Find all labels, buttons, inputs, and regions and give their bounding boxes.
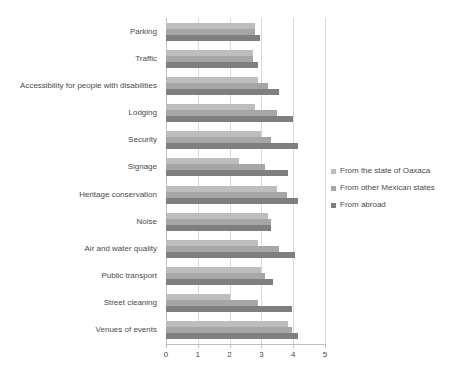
bar-group (166, 317, 325, 344)
axis-tick-label: 3 (259, 350, 263, 359)
plot-area (166, 18, 325, 344)
bar (166, 198, 298, 204)
chart-legend: From the state of OaxacaFrom other Mexic… (331, 166, 456, 217)
bar (166, 279, 273, 285)
legend-item[interactable]: From other Mexican states (331, 183, 456, 193)
axis-line (166, 344, 325, 345)
bar (166, 62, 258, 68)
bar-group (166, 45, 325, 72)
bar (166, 333, 298, 339)
bar-group (166, 127, 325, 154)
legend-swatch-icon (331, 203, 336, 208)
bar (166, 306, 292, 312)
legend-item[interactable]: From abroad (331, 200, 456, 210)
category-label: Parking (0, 18, 162, 45)
axis-tick-label: 0 (164, 350, 168, 359)
axis-tick-label: 4 (291, 350, 295, 359)
bar-group (166, 72, 325, 99)
bar (166, 143, 298, 149)
axis-tick (293, 344, 294, 348)
bar (166, 225, 271, 231)
bar (166, 89, 279, 95)
category-label: Security (0, 127, 162, 154)
category-label: Signage (0, 154, 162, 181)
bar-chart: ParkingTrafficAccessibility for people w… (0, 0, 458, 379)
category-label: Street cleaning (0, 290, 162, 317)
gridline (325, 18, 326, 344)
value-axis: 012345 (166, 344, 325, 364)
axis-tick (325, 344, 326, 348)
bar-group (166, 263, 325, 290)
bar-group (166, 100, 325, 127)
category-label: Venues of events (0, 317, 162, 344)
category-label: Lodging (0, 100, 162, 127)
legend-item[interactable]: From the state of Oaxaca (331, 166, 456, 176)
category-label: Traffic (0, 45, 162, 72)
bar-group (166, 181, 325, 208)
legend-swatch-icon (331, 186, 336, 191)
legend-label: From the state of Oaxaca (340, 166, 430, 176)
legend-label: From other Mexican states (340, 183, 435, 193)
category-label: Heritage conservation (0, 181, 162, 208)
axis-tick-label: 2 (227, 350, 231, 359)
axis-tick (198, 344, 199, 348)
category-label: Accessibility for people with disabiliti… (0, 72, 162, 99)
bar (166, 170, 288, 176)
bar-group (166, 235, 325, 262)
axis-tick-label: 5 (323, 350, 327, 359)
bar (166, 35, 260, 41)
category-label: Public transport (0, 263, 162, 290)
axis-tick (230, 344, 231, 348)
category-axis-labels: ParkingTrafficAccessibility for people w… (0, 18, 162, 344)
axis-tick (261, 344, 262, 348)
bar (166, 116, 293, 122)
bar-group (166, 290, 325, 317)
bar (166, 252, 295, 258)
axis-tick-label: 1 (196, 350, 200, 359)
legend-label: From abroad (340, 200, 386, 210)
legend-swatch-icon (331, 169, 336, 174)
bar-group (166, 154, 325, 181)
bar-group (166, 208, 325, 235)
category-label: Air and water quality (0, 235, 162, 262)
category-label: Noise (0, 208, 162, 235)
bar-group (166, 18, 325, 45)
axis-tick (166, 344, 167, 348)
bar-groups (166, 18, 325, 344)
